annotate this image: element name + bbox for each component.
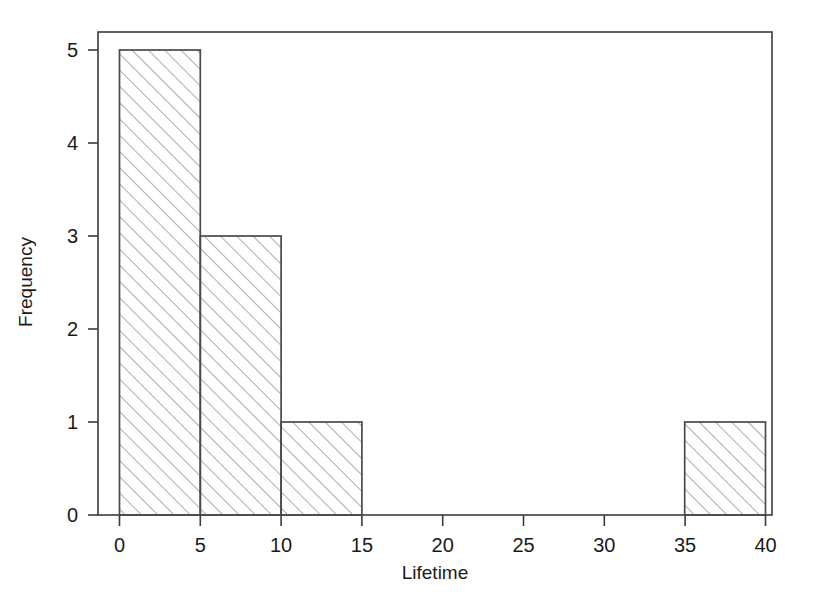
y-tick-label-0: 0 <box>67 504 78 526</box>
bar-bin-35-40[interactable] <box>685 422 766 515</box>
y-axis-title: Frequency <box>15 237 36 327</box>
y-tick-label-3: 3 <box>67 225 78 247</box>
bar-bin-5-10[interactable] <box>200 236 281 515</box>
x-axis-title: Lifetime <box>402 562 469 583</box>
x-tick-label-30: 30 <box>593 534 615 556</box>
x-tick-label-15: 15 <box>351 534 373 556</box>
x-tick-label-35: 35 <box>674 534 696 556</box>
y-tick-label-4: 4 <box>67 132 78 154</box>
x-tick-label-0: 0 <box>114 534 125 556</box>
bar-bin-10-15[interactable] <box>281 422 362 515</box>
x-tick-label-40: 40 <box>754 534 776 556</box>
x-tick-label-5: 5 <box>195 534 206 556</box>
x-tick-label-25: 25 <box>512 534 534 556</box>
bar-bin-0-5[interactable] <box>120 50 201 515</box>
y-tick-label-1: 1 <box>67 411 78 433</box>
y-tick-label-5: 5 <box>67 39 78 61</box>
x-tick-label-20: 20 <box>432 534 454 556</box>
histogram-figure: 0 1 2 3 4 5 0 5 10 15 20 25 30 3 <box>0 0 819 599</box>
x-tick-label-10: 10 <box>270 534 292 556</box>
y-tick-label-2: 2 <box>67 318 78 340</box>
histogram-plot: 0 1 2 3 4 5 0 5 10 15 20 25 30 3 <box>0 0 819 599</box>
